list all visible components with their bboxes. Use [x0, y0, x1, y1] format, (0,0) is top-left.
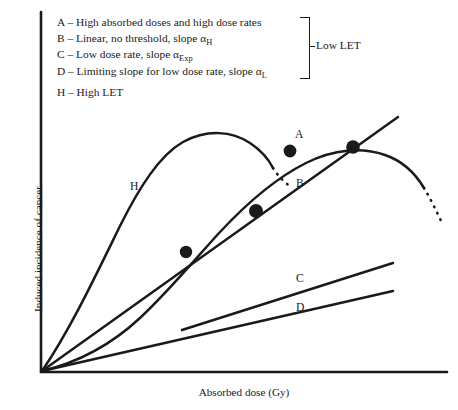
data-point-markers — [180, 140, 360, 258]
plot-svg — [0, 0, 458, 410]
data-point-marker — [346, 140, 360, 154]
data-point-marker — [249, 204, 263, 218]
curve-a-low-let — [42, 150, 424, 371]
line-c-low-dose-rate — [182, 263, 393, 330]
curve-a-dotted-tail — [424, 188, 442, 223]
line-b-linear-no-threshold — [42, 117, 398, 371]
data-point-marker — [180, 246, 192, 258]
curve-h-high-let — [42, 133, 273, 371]
line-d-limiting-slope — [42, 291, 393, 371]
data-point-marker — [284, 145, 297, 158]
figure-container: A – High absorbed doses and high dose ra… — [0, 0, 458, 410]
